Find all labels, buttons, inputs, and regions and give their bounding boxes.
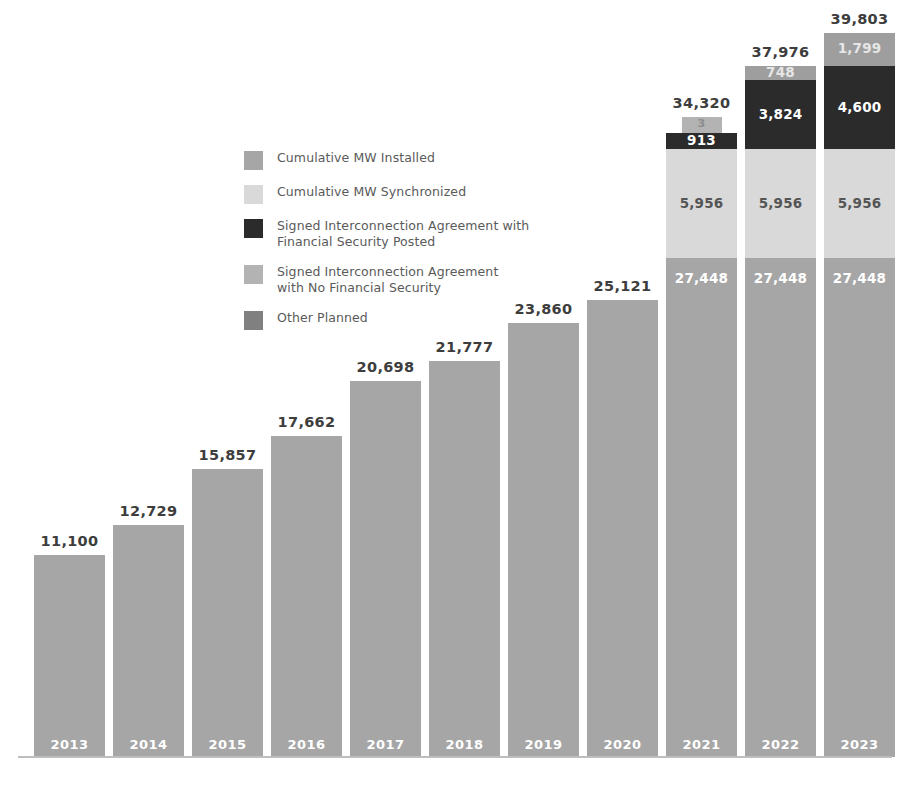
bar-total-label-2015: 15,857 — [199, 447, 257, 463]
bar-segment-2016-installed[interactable] — [271, 436, 342, 757]
x-axis-line — [18, 756, 892, 758]
x-axis-tick-2022: 2022 — [745, 737, 816, 752]
bar-group-2022[interactable]: 27,4485,9563,824748202237,976 — [745, 66, 816, 757]
legend-item-signed_nofs[interactable]: Signed Interconnection Agreement with No… — [244, 264, 544, 296]
x-axis-tick-2014: 2014 — [113, 737, 184, 752]
segment-value-2021-installed: 27,448 — [666, 270, 737, 286]
bar-segment-2022-installed[interactable]: 27,448 — [745, 258, 816, 757]
segment-value-2022-signed_fs: 3,824 — [745, 106, 816, 122]
x-axis-tick-2017: 2017 — [350, 737, 421, 752]
bar-segment-2022-synchronized[interactable]: 5,956 — [745, 149, 816, 257]
chart-root: 201311,100201412,729201515,857201617,662… — [0, 0, 901, 786]
bar-group-2019[interactable]: 201923,860 — [508, 323, 579, 757]
bar-total-label-2022: 37,976 — [752, 44, 810, 60]
segment-value-2023-other_planned: 1,799 — [824, 40, 895, 56]
bar-group-2016[interactable]: 201617,662 — [271, 436, 342, 757]
x-axis-tick-2016: 2016 — [271, 737, 342, 752]
bar-segment-2014-installed[interactable] — [113, 525, 184, 757]
legend-swatch-other_planned — [244, 311, 263, 330]
segment-value-2023-signed_fs: 4,600 — [824, 99, 895, 115]
legend-item-synchronized[interactable]: Cumulative MW Synchronized — [244, 184, 544, 204]
bar-segment-2015-installed[interactable] — [192, 469, 263, 757]
bar-group-2014[interactable]: 201412,729 — [113, 525, 184, 757]
bar-segment-2021-installed[interactable]: 27,448 — [666, 258, 737, 757]
segment-value-2022-synchronized: 5,956 — [745, 195, 816, 211]
x-axis-tick-2013: 2013 — [34, 737, 105, 752]
bar-total-label-2020: 25,121 — [594, 278, 652, 294]
bar-total-label-2016: 17,662 — [278, 414, 336, 430]
legend-item-installed[interactable]: Cumulative MW Installed — [244, 150, 544, 170]
bar-segment-2021-synchronized[interactable]: 5,956 — [666, 149, 737, 257]
segment-value-2021-synchronized: 5,956 — [666, 195, 737, 211]
x-axis-tick-2015: 2015 — [192, 737, 263, 752]
bar-total-label-2021: 34,320 — [673, 95, 731, 111]
segment-value-2021-signed_fs: 913 — [666, 132, 737, 148]
legend-item-signed_fs[interactable]: Signed Interconnection Agreement with Fi… — [244, 218, 544, 250]
bar-total-label-2013: 11,100 — [41, 533, 99, 549]
bar-group-2013[interactable]: 201311,100 — [34, 555, 105, 757]
legend-label-installed: Cumulative MW Installed — [277, 150, 435, 166]
segment-value-2022-installed: 27,448 — [745, 270, 816, 286]
bar-group-2015[interactable]: 201515,857 — [192, 469, 263, 757]
bar-total-label-2014: 12,729 — [120, 503, 178, 519]
legend-swatch-installed — [244, 151, 263, 170]
bar-segment-2020-installed[interactable] — [587, 300, 658, 757]
x-axis-tick-2018: 2018 — [429, 737, 500, 752]
bar-segment-2021-signed_fs[interactable]: 913 — [666, 133, 737, 150]
bar-segment-2023-signed_fs[interactable]: 4,600 — [824, 66, 895, 150]
bar-segment-2023-other_planned[interactable]: 1,799 — [824, 33, 895, 66]
bar-total-label-2017: 20,698 — [357, 359, 415, 375]
x-axis-tick-2021: 2021 — [666, 737, 737, 752]
bar-segment-2023-installed[interactable]: 27,448 — [824, 258, 895, 757]
plot-area: 201311,100201412,729201515,857201617,662… — [0, 0, 901, 786]
bar-segment-2022-other_planned[interactable]: 748 — [745, 66, 816, 80]
bar-segment-2013-installed[interactable] — [34, 555, 105, 757]
segment-value-2023-installed: 27,448 — [824, 270, 895, 286]
legend-label-signed_nofs: Signed Interconnection Agreement with No… — [277, 264, 498, 296]
bar-group-2021[interactable]: 27,4485,9569133202134,320 — [666, 133, 737, 757]
legend-label-other_planned: Other Planned — [277, 310, 368, 326]
x-axis-tick-2020: 2020 — [587, 737, 658, 752]
bar-group-2023[interactable]: 27,4485,9564,6001,799202339,803 — [824, 33, 895, 757]
legend-item-other_planned[interactable]: Other Planned — [244, 310, 544, 330]
legend-label-signed_fs: Signed Interconnection Agreement with Fi… — [277, 218, 529, 250]
bar-segment-2023-synchronized[interactable]: 5,956 — [824, 149, 895, 257]
bar-segment-2021-signed_nofs[interactable]: 3 — [682, 117, 722, 133]
segment-value-2021-signed_nofs: 3 — [682, 117, 722, 130]
bar-group-2017[interactable]: 201720,698 — [350, 381, 421, 757]
bar-group-2018[interactable]: 201821,777 — [429, 361, 500, 757]
legend-label-synchronized: Cumulative MW Synchronized — [277, 184, 466, 200]
legend-swatch-signed_nofs — [244, 265, 263, 284]
chart-legend: Cumulative MW InstalledCumulative MW Syn… — [244, 150, 544, 344]
x-axis-tick-2023: 2023 — [824, 737, 895, 752]
legend-swatch-synchronized — [244, 185, 263, 204]
x-axis-tick-2019: 2019 — [508, 737, 579, 752]
segment-value-2022-other_planned: 748 — [745, 64, 816, 80]
legend-swatch-signed_fs — [244, 219, 263, 238]
bar-segment-2018-installed[interactable] — [429, 361, 500, 757]
bar-segment-2019-installed[interactable] — [508, 323, 579, 757]
bar-group-2020[interactable]: 202025,121 — [587, 300, 658, 757]
bar-total-label-2023: 39,803 — [831, 11, 889, 27]
bar-segment-2022-signed_fs[interactable]: 3,824 — [745, 80, 816, 150]
bar-segment-2017-installed[interactable] — [350, 381, 421, 757]
segment-value-2023-synchronized: 5,956 — [824, 195, 895, 211]
